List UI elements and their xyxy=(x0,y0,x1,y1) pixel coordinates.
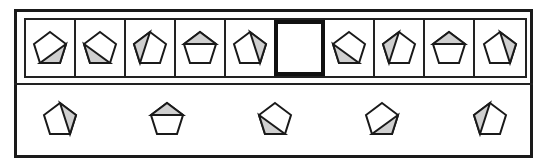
option-4[interactable] xyxy=(362,99,402,139)
sequence-cell-10 xyxy=(475,20,525,76)
sequence-cell-9 xyxy=(425,20,475,76)
pentagon-shaded-bottom-left-icon xyxy=(255,99,295,139)
pentagon-shaded-left-top-icon xyxy=(130,28,170,68)
pentagon-shaded-right-top-icon xyxy=(40,99,80,139)
option-2[interactable] xyxy=(147,99,187,139)
pentagon-shaded-bottom-right-icon xyxy=(362,99,402,139)
sequence-cell-8 xyxy=(375,20,425,76)
pentagon-shaded-bottom-left-icon xyxy=(80,28,120,68)
sequence-cell-4 xyxy=(176,20,226,76)
pentagon-shaded-top-icon xyxy=(147,99,187,139)
sequence-cell-1 xyxy=(26,20,76,76)
option-3[interactable] xyxy=(255,99,295,139)
sequence-cell-2 xyxy=(76,20,126,76)
pentagon-shaded-right-top-icon xyxy=(230,28,270,68)
pentagon-shaded-top-icon xyxy=(180,28,220,68)
options-row xyxy=(17,85,530,152)
sequence-row xyxy=(24,18,527,78)
sequence-cell-3 xyxy=(126,20,176,76)
pentagon-shaded-left-top-icon xyxy=(379,28,419,68)
option-1[interactable] xyxy=(40,99,80,139)
missing-cell[interactable] xyxy=(274,20,326,76)
pentagon-shaded-right-top-icon xyxy=(480,28,520,68)
sequence-cell-7 xyxy=(325,20,375,76)
pentagon-shaded-bottom-left-icon xyxy=(329,28,369,68)
option-5[interactable] xyxy=(470,99,510,139)
pentagon-shaded-left-top-icon xyxy=(470,99,510,139)
pentagon-shaded-top-icon xyxy=(429,28,469,68)
sequence-cell-5 xyxy=(226,20,276,76)
pentagon-shaded-bottom-right-icon xyxy=(30,28,70,68)
